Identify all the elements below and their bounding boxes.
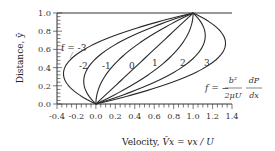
formula-den2: dx	[249, 91, 259, 100]
y-tick-label: 0.4	[38, 63, 51, 73]
x-tick-label: 0.8	[167, 111, 180, 121]
x-tick-label: 0.0	[89, 111, 102, 121]
velocity-curves	[63, 13, 225, 104]
velocity-profile-chart: 0.00.20.40.60.81.0 -0.4-0.20.00.20.40.60…	[0, 0, 275, 151]
x-axis-title-prefix: Velocity,	[121, 137, 162, 147]
curve-f-2	[96, 13, 205, 104]
curve-f--2	[84, 13, 193, 104]
x-tick-label: 0.2	[109, 111, 122, 121]
y-axis-ticks: 0.00.20.40.60.81.0	[38, 8, 62, 109]
x-tick-label: 0.6	[148, 111, 161, 121]
formula-annotation: f = − b² 2μU dP dx	[204, 76, 262, 100]
curve-label: 1	[152, 58, 158, 68]
y-axis-title: Distance, ȳ	[15, 32, 25, 84]
x-tick-label: -0.2	[69, 111, 85, 121]
x-tick-label: 1.0	[187, 111, 200, 121]
x-tick-label: -0.4	[49, 111, 65, 121]
y-tick-label: 0.8	[38, 26, 51, 36]
x-axis-title-rest: = vx / U	[174, 137, 214, 147]
curve-label: 2	[180, 58, 186, 68]
x-tick-label: 0.4	[128, 111, 141, 121]
curve-label: 3	[204, 58, 210, 68]
y-tick-label: 1.0	[38, 8, 51, 18]
x-axis-ticks: -0.4-0.20.00.20.40.60.81.01.21.4	[49, 104, 238, 121]
x-tick-label: 1.4	[225, 111, 238, 121]
formula-num2: dP	[249, 76, 260, 85]
y-tick-label: 0.6	[38, 44, 51, 54]
formula-den1: 2μU	[223, 91, 241, 100]
x-axis-title: Velocity, V̄x = vx / U	[121, 136, 214, 147]
curve-label: 0	[129, 61, 135, 71]
curve-label: -2	[79, 61, 88, 71]
y-tick-label: 0.0	[38, 99, 51, 109]
y-tick-label: 0.2	[38, 81, 51, 91]
curve-label-f-minus-3: f = -3	[61, 43, 87, 53]
curve-f--3	[63, 13, 193, 104]
x-tick-label: 1.2	[206, 111, 219, 121]
curve-label: -1	[102, 61, 111, 71]
formula-num1: b²	[229, 76, 237, 85]
x-axis-title-symbol: V̄x	[162, 136, 174, 147]
curve-f-0	[96, 13, 193, 104]
